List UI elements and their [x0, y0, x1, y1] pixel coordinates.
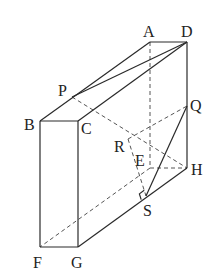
edge-dp — [72, 42, 187, 97]
label-a: A — [143, 23, 155, 40]
label-h: H — [191, 161, 203, 178]
edge-rq — [128, 106, 187, 139]
prism-diagram: A D P Q B C R E H S F G — [0, 0, 221, 280]
right-angle-mark — [139, 190, 144, 199]
label-r: R — [114, 138, 125, 155]
label-s: S — [143, 202, 152, 219]
edge-gh — [78, 168, 187, 247]
label-c: C — [81, 120, 92, 137]
label-b: B — [24, 116, 35, 133]
label-q: Q — [190, 97, 202, 114]
label-p: P — [58, 82, 67, 99]
label-f: F — [33, 254, 42, 271]
label-g: G — [71, 254, 83, 271]
label-e: E — [135, 152, 145, 169]
label-d: D — [181, 23, 193, 40]
vertex-labels: A D P Q B C R E H S F G — [24, 23, 203, 271]
right-angle-icon — [139, 190, 144, 199]
